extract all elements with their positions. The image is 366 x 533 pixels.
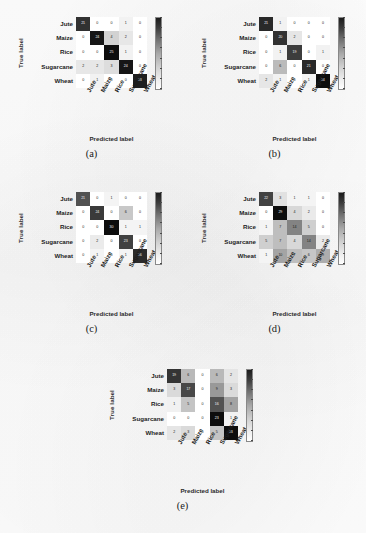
y-tick-label-rice: Rice — [243, 49, 256, 55]
colorbar-tick — [160, 253, 162, 254]
heatmap-cell: 0 — [119, 192, 133, 206]
heatmap-cell: 1 — [273, 45, 287, 59]
heatmap-cell: 1 — [273, 17, 287, 31]
heatmap-cell: 24 — [90, 206, 104, 220]
heatmap-cell: 3 — [273, 192, 287, 206]
heatmap-cell: 0 — [76, 45, 90, 59]
y-tick-label-wheat: Wheat — [54, 78, 73, 84]
heatmap-cell: 0 — [181, 412, 195, 426]
y-tick-label-sugarcane: Sugarcane — [41, 239, 73, 245]
heatmap-cell: 0 — [104, 17, 118, 31]
y-tick-label-rice: Rice — [60, 224, 73, 230]
colorbar-tick — [160, 233, 162, 234]
colorbar-tick — [343, 78, 345, 79]
panel-caption: (a) — [0, 148, 183, 159]
y-tick-label-jute: Jute — [60, 196, 73, 202]
heatmap-cell: 0 — [133, 17, 147, 31]
x-axis-title: Predicted label — [153, 487, 252, 494]
heatmap-cell: 0 — [302, 17, 316, 31]
y-axis-title: True label — [17, 38, 24, 68]
colorbar-tick — [160, 212, 162, 213]
colorbar-tick — [343, 88, 345, 89]
heatmap-cell: 0 — [167, 412, 181, 426]
colorbar-tick — [160, 37, 162, 38]
heatmap-cell: 2 — [119, 31, 133, 45]
heatmap-cell: 8 — [224, 397, 238, 411]
colorbar-tick — [251, 410, 253, 411]
heatmap-cell: 0 — [302, 45, 316, 59]
colorbar-tick — [160, 202, 162, 203]
heatmap-cell: 4 — [104, 31, 118, 45]
heatmap-cell: 30 — [104, 220, 118, 234]
heatmap-cell: 5 — [302, 220, 316, 234]
heatmap-cell: 1 — [167, 397, 181, 411]
confusion-matrix-panel-d: True labelJuteMaizeRiceSugarcaneWheat223… — [183, 175, 366, 350]
colorbar — [155, 192, 162, 265]
colorbar-tick — [160, 17, 162, 18]
heatmap-cell: 0 — [133, 192, 147, 206]
heatmap-cell: 22 — [259, 192, 273, 206]
heatmap-cell: 29 — [273, 206, 287, 220]
heatmap-cell: 14 — [302, 235, 316, 249]
heatmap-cell: 0 — [76, 31, 90, 45]
colorbar-tick — [343, 263, 345, 264]
colorbar-tick — [160, 192, 162, 193]
panel-caption: (e) — [91, 500, 274, 511]
heatmap-cell: 23 — [210, 412, 224, 426]
heatmap-cell: 4 — [287, 235, 301, 249]
y-tick-label-wheat: Wheat — [237, 78, 256, 84]
heatmap-cell: 2 — [287, 31, 301, 45]
heatmap-cell: 1 — [302, 192, 316, 206]
heatmap-cell: 0 — [76, 220, 90, 234]
colorbar-tick — [343, 202, 345, 203]
confusion-matrix-panel-a: True labelJuteMaizeRiceSugarcaneWheat210… — [0, 0, 183, 175]
colorbar-tick — [343, 58, 345, 59]
colorbar-tick — [343, 222, 345, 223]
heatmap-cell: 16 — [210, 397, 224, 411]
heatmap-cell: 17 — [181, 383, 195, 397]
heatmap-cell: 4 — [287, 206, 301, 220]
heatmap-cell: 21 — [76, 192, 90, 206]
x-axis-title: Predicted label — [62, 310, 161, 317]
heatmap-cell: 0 — [104, 235, 118, 249]
y-tick-label-jute: Jute — [243, 196, 256, 202]
y-tick-label-maize: Maize — [56, 210, 73, 216]
colorbar-tick — [160, 27, 162, 28]
heatmap-cell: 1 — [119, 220, 133, 234]
heatmap-cell: 6 — [273, 60, 287, 74]
y-tick-label-sugarcane: Sugarcane — [224, 239, 256, 245]
panel-caption: (d) — [183, 323, 366, 334]
heatmap-cell: 1 — [119, 17, 133, 31]
x-axis-title: Predicted label — [62, 135, 161, 142]
colorbar-tick — [251, 399, 253, 400]
heatmap-cell: 1 — [133, 220, 147, 234]
y-tick-label-rice: Rice — [151, 401, 164, 407]
heatmap-cell: 0 — [302, 31, 316, 45]
heatmap-cell: 0 — [259, 45, 273, 59]
heatmap-cell: 0 — [316, 31, 330, 45]
colorbar-tick — [251, 379, 253, 380]
heatmap-cell: 0 — [287, 17, 301, 31]
colorbar-tick — [343, 233, 345, 234]
heatmap-cell: 6 — [181, 369, 195, 383]
heatmap-cell: 3 — [224, 383, 238, 397]
confusion-matrix-figure: True labelJuteMaizeRiceSugarcaneWheat210… — [0, 0, 366, 533]
y-tick-label-rice: Rice — [243, 224, 256, 230]
colorbar-tick — [343, 37, 345, 38]
heatmap-cell: 1 — [119, 45, 133, 59]
heatmap-cell: 3 — [167, 383, 181, 397]
colorbar-tick — [343, 17, 345, 18]
heatmap-cell: 0 — [195, 369, 209, 383]
colorbar-tick — [343, 192, 345, 193]
panel-caption: (c) — [0, 323, 183, 334]
colorbar-tick — [343, 243, 345, 244]
heatmap-cell: 0 — [195, 397, 209, 411]
heatmap-cell: 3 — [104, 60, 118, 74]
heatmap-cell: 0 — [76, 235, 90, 249]
heatmap-cell: 2 — [76, 60, 90, 74]
y-tick-label-wheat: Wheat — [237, 253, 256, 259]
colorbar — [246, 369, 253, 442]
confusion-matrix-panel-b: True labelJuteMaizeRiceSugarcaneWheat211… — [183, 0, 366, 175]
heatmap-cell: 0 — [195, 383, 209, 397]
y-tick-label-maize: Maize — [239, 210, 256, 216]
